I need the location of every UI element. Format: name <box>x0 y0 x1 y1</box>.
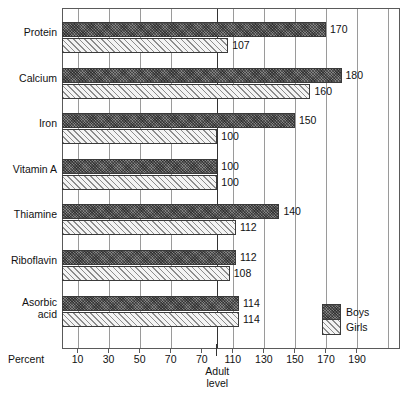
legend-swatch-girls <box>322 319 341 335</box>
category-label-line: Iron <box>39 117 57 129</box>
x-axis-tick-label: 150 <box>286 353 304 365</box>
bar-girls <box>62 220 236 235</box>
bar-boys <box>62 250 236 265</box>
adult-level-line1: Adult <box>205 365 229 377</box>
x-axis-tick-mark <box>170 349 171 353</box>
x-axis-tick-mark <box>263 349 264 353</box>
x-axis-tick-label: 70 <box>196 353 208 365</box>
bar-boys <box>62 68 342 83</box>
bar-boys <box>62 159 217 174</box>
x-axis-tick-mark <box>201 349 202 353</box>
bar-girls <box>62 84 310 99</box>
bar-girls <box>62 129 217 144</box>
gridline <box>264 9 265 348</box>
bar-boys <box>62 204 279 219</box>
x-axis-tick-mark <box>356 349 357 353</box>
bar-value-girls: 160 <box>314 84 332 99</box>
bar-value-boys: 140 <box>283 204 301 219</box>
bar-value-boys: 100 <box>221 159 239 174</box>
bar-boys <box>62 22 326 37</box>
bar-value-girls: 100 <box>221 129 239 144</box>
legend-label-girls: Girls <box>346 319 368 335</box>
category-label-line: Calcium <box>19 72 57 84</box>
legend-swatch-boys <box>322 304 341 320</box>
x-axis-tick-mark <box>325 349 326 353</box>
adult-level-caption: Adult level <box>205 365 229 389</box>
gridline <box>295 9 296 348</box>
x-axis-tick-mark <box>294 349 295 353</box>
bar-value-boys: 114 <box>243 296 260 311</box>
x-axis-tick-label: 170 <box>317 353 335 365</box>
x-axis-tick-label: 190 <box>348 353 366 365</box>
adult-level-tick <box>216 344 217 356</box>
x-axis-tick-mark <box>77 349 78 353</box>
category-label: Thiamine <box>14 208 57 220</box>
bar-value-boys: 170 <box>330 22 348 37</box>
bar-value-girls: 108 <box>234 266 252 281</box>
category-label: Vitamin A <box>13 163 57 175</box>
bar-girls <box>62 38 228 53</box>
bar-chart: 170107Protein180160Calcium150100Iron1001… <box>0 0 419 394</box>
category-label: Riboflavin <box>11 254 57 266</box>
adult-level-line2: level <box>205 377 229 389</box>
legend-label-boys: Boys <box>346 304 369 320</box>
bar-girls <box>62 175 217 190</box>
bar-boys <box>62 296 239 311</box>
category-label-line: Vitamin A <box>13 163 57 175</box>
category-label: Iron <box>39 117 57 129</box>
x-axis-tick-label: 10 <box>72 353 84 365</box>
bar-boys <box>62 113 295 128</box>
bar-value-girls: 107 <box>232 38 250 53</box>
category-label-line: acid <box>22 308 57 320</box>
bar-girls <box>62 312 239 327</box>
x-axis-tick-label: 50 <box>134 353 146 365</box>
bar-value-girls: 114 <box>243 312 260 327</box>
bar-value-girls: 112 <box>240 220 257 235</box>
category-label: Protein <box>24 26 57 38</box>
axis-label-percent: Percent <box>8 353 44 365</box>
category-label: Calcium <box>19 72 57 84</box>
category-label-line: Riboflavin <box>11 254 57 266</box>
x-axis-tick-label: 30 <box>103 353 115 365</box>
bar-girls <box>62 266 230 281</box>
bar-value-boys: 150 <box>299 113 317 128</box>
gridline <box>357 9 358 348</box>
bar-value-boys: 112 <box>240 250 257 265</box>
x-axis-tick-mark <box>139 349 140 353</box>
x-axis-tick-label: 70 <box>165 353 177 365</box>
x-axis-tick-mark <box>108 349 109 353</box>
category-label: Asorbicacid <box>22 296 57 320</box>
x-axis-tick-mark <box>232 349 233 353</box>
gridline <box>326 9 327 348</box>
category-label-line: Protein <box>24 26 57 38</box>
gridline <box>388 9 389 348</box>
category-label-line: Thiamine <box>14 208 57 220</box>
category-label-line: Asorbic <box>22 296 57 308</box>
x-axis-tick-label: 130 <box>255 353 273 365</box>
bar-value-girls: 100 <box>221 175 239 190</box>
bar-value-boys: 180 <box>346 68 364 83</box>
x-axis-tick-label: 110 <box>224 353 241 365</box>
